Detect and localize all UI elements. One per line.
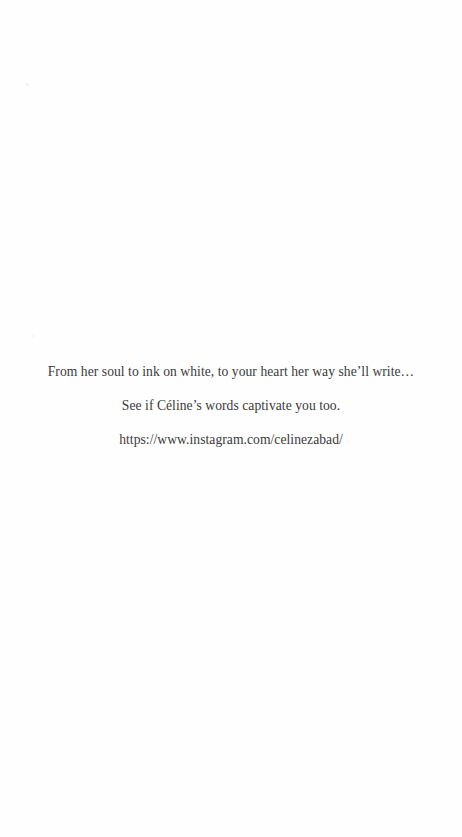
tagline-text: From her soul to ink on white, to your h… [0,363,462,381]
invitation-text: See if Céline’s words captivate you too. [0,397,462,415]
scan-speck [26,83,29,86]
text-block: From her soul to ink on white, to your h… [0,363,462,449]
instagram-link[interactable]: https://www.instagram.com/celinezabad/ [0,431,462,449]
document-page: From her soul to ink on white, to your h… [0,0,462,837]
scan-speck [32,335,34,337]
